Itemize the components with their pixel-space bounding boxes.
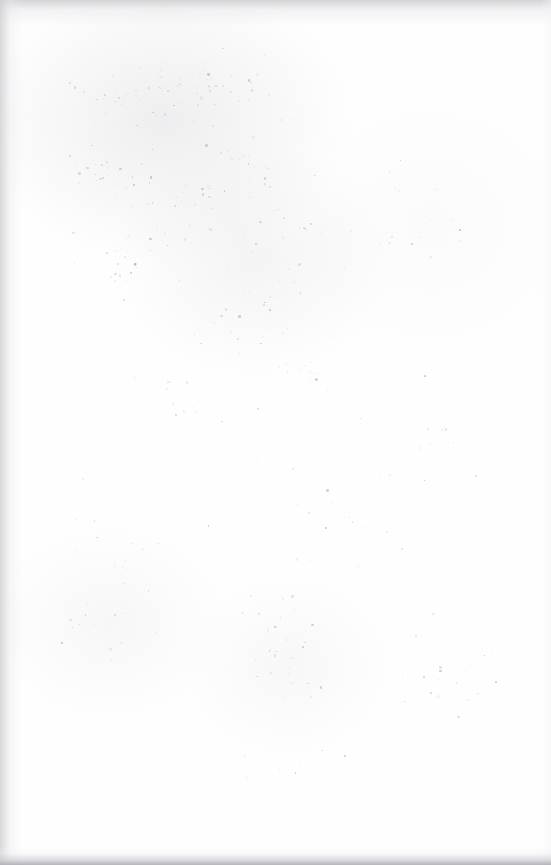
page-content-area xyxy=(0,0,551,865)
scanned-page xyxy=(0,0,551,865)
